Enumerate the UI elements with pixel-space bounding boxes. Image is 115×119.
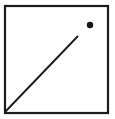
figure-canvas xyxy=(0,0,115,119)
dot xyxy=(87,22,93,28)
diagonal-line xyxy=(5,36,78,112)
square-diagram-svg xyxy=(0,0,115,119)
